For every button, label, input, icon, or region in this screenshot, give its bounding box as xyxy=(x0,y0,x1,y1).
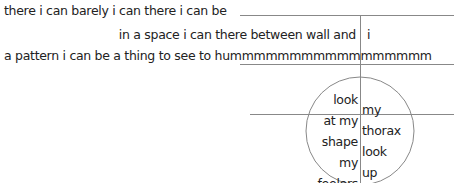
circle-left-5: feelers xyxy=(318,176,359,183)
poem-line-2-right: i xyxy=(367,27,370,43)
poem-line-2: in a space i can there between wall and xyxy=(119,27,356,43)
circle-left-3: shape xyxy=(322,134,358,150)
circle-left-4: my xyxy=(339,155,358,171)
circle-right-4: up xyxy=(362,165,377,181)
poem-line-3: a pattern i can be a thing to see to hum… xyxy=(4,48,432,64)
circle-right-1: my xyxy=(362,102,381,118)
circle-right-3: look xyxy=(362,144,387,160)
circle-left-1: look xyxy=(333,92,358,108)
circle-right-2: thorax xyxy=(362,123,401,139)
poem-line-1: there i can barely i can there i can be xyxy=(4,3,227,19)
circle-left-2: at my xyxy=(323,113,358,129)
